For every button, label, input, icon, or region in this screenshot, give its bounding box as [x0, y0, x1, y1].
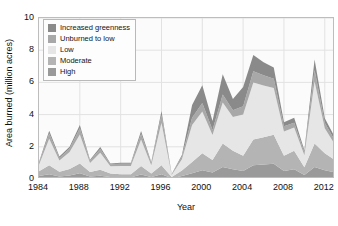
x-tick-label: 1984 — [18, 182, 58, 192]
y-tick-label: 6 — [4, 76, 34, 86]
x-tick-label: 1992 — [100, 182, 140, 192]
legend-label: High — [60, 67, 75, 77]
legend-swatch-icon — [48, 57, 56, 65]
legend-label: Moderate — [60, 56, 92, 66]
x-tick-label: 2008 — [263, 182, 303, 192]
legend-item: Low — [48, 45, 130, 55]
x-tick-label: 2012 — [304, 182, 338, 192]
legend-item: Unburned to low — [48, 34, 130, 44]
chart-figure: Area burned (million acres) 0246810 1984… — [0, 0, 338, 226]
x-tick-label: 1996 — [140, 182, 180, 192]
legend-swatch-icon — [48, 46, 56, 54]
y-tick-label: 4 — [4, 109, 34, 119]
legend-swatch-icon — [48, 35, 56, 43]
legend-label: Unburned to low — [60, 34, 115, 44]
y-tick-label: 2 — [4, 141, 34, 151]
legend-item: Increased greenness — [48, 23, 130, 33]
legend-swatch-icon — [48, 24, 56, 32]
legend-label: Low — [60, 45, 74, 55]
y-tick-label: 8 — [4, 44, 34, 54]
x-tick-label: 1988 — [59, 182, 99, 192]
y-tick-label: 10 — [4, 12, 34, 22]
x-axis-label: Year — [38, 202, 334, 212]
x-tick-label: 2000 — [181, 182, 221, 192]
legend-swatch-icon — [48, 68, 56, 76]
chart-legend: Increased greennessUnburned to lowLowMod… — [43, 19, 136, 81]
x-tick-label: 2004 — [222, 182, 262, 192]
legend-label: Increased greenness — [60, 23, 130, 33]
y-axis-tick-labels: 0246810 — [0, 0, 34, 226]
legend-item: Moderate — [48, 56, 130, 66]
legend-item: High — [48, 67, 130, 77]
